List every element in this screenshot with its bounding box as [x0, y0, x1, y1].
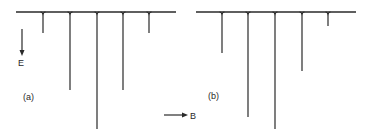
absorption-line: [300, 12, 305, 71]
absorption-line: [121, 12, 126, 90]
absorption-line: [326, 12, 331, 26]
absorption-line: [147, 12, 152, 33]
spectrum-figure: E (a) (b) B: [0, 0, 371, 136]
energy-arrow-icon: [20, 29, 25, 56]
panel-a-label: (a): [23, 92, 34, 102]
absorption-line: [246, 12, 251, 117]
field-arrow-icon: [164, 113, 188, 118]
absorption-line: [95, 12, 100, 129]
panel-a: [16, 12, 176, 129]
panel-b-label: (b): [208, 91, 219, 101]
absorption-line: [273, 12, 278, 129]
absorption-line: [220, 12, 225, 53]
energy-axis-label: E: [18, 58, 24, 68]
panel-b: [196, 12, 356, 129]
field-axis-label: B: [190, 111, 196, 121]
absorption-line: [68, 12, 73, 90]
absorption-line: [41, 12, 46, 33]
spectrum-diagram: E (a) (b) B: [0, 0, 371, 136]
